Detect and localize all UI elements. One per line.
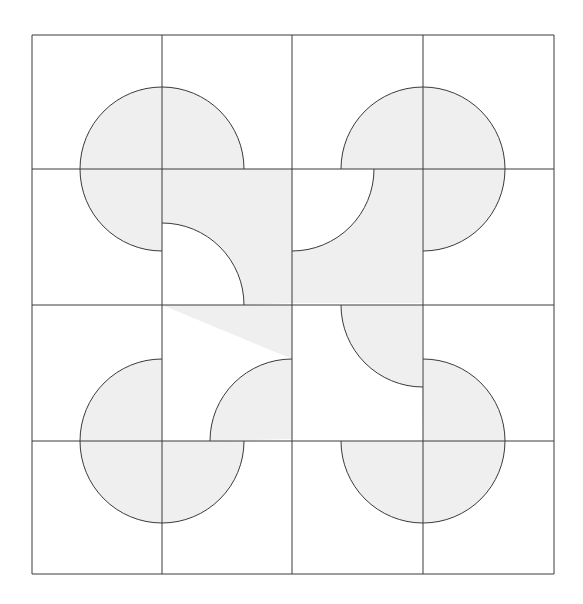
tile-r2c3 — [292, 169, 422, 303]
tile-r3c3 — [292, 305, 423, 439]
tile-r3c2 — [162, 305, 292, 441]
tile-r2c2 — [162, 169, 292, 305]
quarter-circle-grid-diagram — [0, 0, 583, 604]
